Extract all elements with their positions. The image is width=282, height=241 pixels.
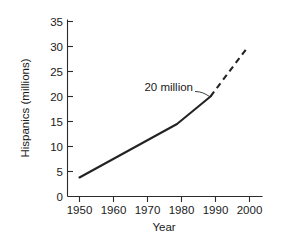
y-tick-label-30: 30 xyxy=(50,41,63,53)
annotation-leader-line xyxy=(195,92,210,97)
x-tick-label-1960: 1960 xyxy=(101,204,127,216)
axes-group xyxy=(68,20,263,197)
y-tick-labels: 35 30 25 20 15 10 5 0 xyxy=(50,16,63,203)
annotation-20-million: 20 million xyxy=(144,81,193,93)
y-tick-label-5: 5 xyxy=(57,166,63,178)
y-tick-marks xyxy=(68,22,74,172)
y-tick-label-10: 10 xyxy=(50,141,63,153)
series-observed-line xyxy=(80,97,211,178)
y-tick-label-15: 15 xyxy=(50,116,63,128)
chart-container: 35 30 25 20 15 10 5 0 1950 1960 1970 198… xyxy=(0,0,282,241)
x-tick-label-1980: 1980 xyxy=(169,204,195,216)
y-tick-label-35: 35 xyxy=(50,16,63,28)
y-axis-title: Hispanics (millions) xyxy=(19,58,31,157)
x-tick-label-1990: 1990 xyxy=(203,204,229,216)
y-tick-label-25: 25 xyxy=(50,66,63,78)
y-tick-label-20: 20 xyxy=(50,91,63,103)
x-axis-title: Year xyxy=(152,221,175,233)
line-chart: 35 30 25 20 15 10 5 0 1950 1960 1970 198… xyxy=(0,0,282,241)
x-tick-labels: 1950 1960 1970 1980 1990 2000 xyxy=(67,204,263,216)
x-tick-label-1970: 1970 xyxy=(135,204,161,216)
series-projected-line xyxy=(211,48,248,97)
x-tick-marks xyxy=(80,197,250,203)
x-tick-label-1950: 1950 xyxy=(67,204,93,216)
y-tick-label-0: 0 xyxy=(57,191,63,203)
x-tick-label-2000: 2000 xyxy=(237,204,263,216)
